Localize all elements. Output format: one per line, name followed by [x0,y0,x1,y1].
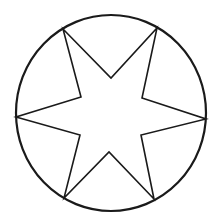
star-in-circle-diagram [0,0,219,218]
outer-circle [16,15,206,211]
diagram-canvas [0,0,219,218]
six-pointed-star [16,28,206,199]
